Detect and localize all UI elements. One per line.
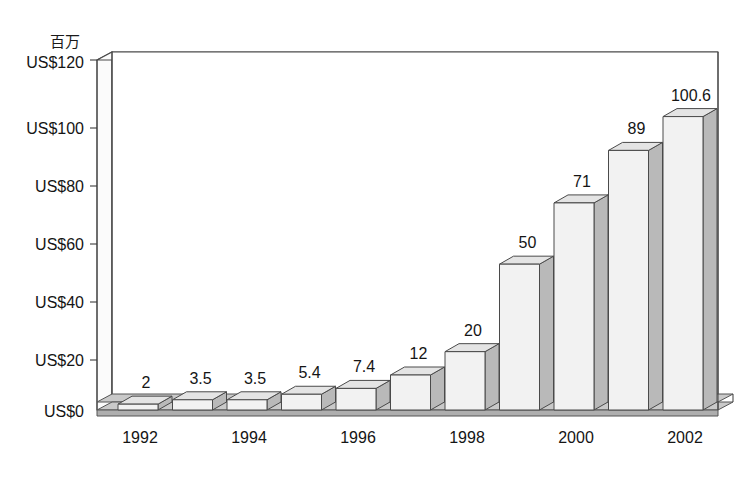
x-tick-label-1998: 1998 — [449, 429, 485, 446]
x-tick-label-1994: 1994 — [231, 429, 267, 446]
axis-wall-side — [97, 52, 112, 410]
chart-screenshot: 百万 US$120 US$100 US$80 US$60 US$40 US$20… — [0, 0, 753, 479]
bar-side-face — [703, 109, 717, 410]
bar-front-face — [445, 352, 485, 410]
y-tick-label-20: US$20 — [35, 352, 84, 369]
bar-value-label: 12 — [410, 345, 428, 362]
bar-side-face — [649, 142, 663, 410]
bar-front-face — [500, 264, 540, 410]
y-tick-label-120: US$120 — [26, 54, 84, 71]
bar-value-label: 100.6 — [671, 87, 711, 104]
bar-value-label: 2 — [142, 374, 151, 391]
bar-column — [336, 380, 390, 410]
y-tick-label-60: US$60 — [35, 236, 84, 253]
x-tick-label-2000: 2000 — [558, 429, 594, 446]
bar-column — [663, 109, 717, 410]
bar-value-label: 3.5 — [244, 370, 266, 387]
x-tick-label-2002: 2002 — [667, 429, 703, 446]
bar-value-label: 5.4 — [298, 364, 320, 381]
bar-front-face — [282, 394, 322, 410]
bar-side-face — [540, 256, 554, 410]
x-tick-label-1996: 1996 — [340, 429, 376, 446]
bar-front-face — [118, 404, 158, 410]
bar-front-face — [609, 150, 649, 410]
bar-front-face — [227, 400, 267, 410]
y-axis-unit-label: 百万 — [50, 33, 80, 51]
bar-side-face — [485, 344, 499, 410]
bar-column — [500, 256, 554, 410]
y-tick-label-40: US$40 — [35, 294, 84, 311]
bar-front-face — [554, 203, 594, 410]
bar-front-face — [173, 400, 213, 410]
bar-chart: 百万 US$120 US$100 US$80 US$60 US$40 US$20… — [0, 0, 753, 479]
bar-front-face — [391, 375, 431, 410]
chart-floor-front — [97, 410, 718, 416]
bar-value-label: 89 — [628, 120, 646, 137]
bar-front-face — [336, 388, 376, 410]
bar-side-face — [594, 195, 608, 410]
bottom-caption — [0, 465, 753, 479]
y-tick-label-100: US$100 — [26, 120, 84, 137]
bar-column — [554, 195, 608, 410]
bar-value-label: 71 — [573, 173, 591, 190]
bar-value-label: 7.4 — [353, 358, 375, 375]
bar-column — [282, 386, 336, 410]
bar-column — [391, 367, 445, 410]
bar-front-face — [663, 117, 703, 410]
bar-column — [445, 344, 499, 410]
bar-value-label: 3.5 — [189, 370, 211, 387]
bar-value-label: 20 — [464, 322, 482, 339]
bar-value-label: 50 — [519, 234, 537, 251]
x-tick-label-1992: 1992 — [122, 429, 158, 446]
bar-column — [609, 142, 663, 410]
y-tick-label-0: US$0 — [44, 403, 84, 420]
y-tick-label-80: US$80 — [35, 178, 84, 195]
